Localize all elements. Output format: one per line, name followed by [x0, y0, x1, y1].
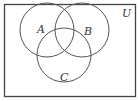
venn-diagram: A B C U	[0, 0, 138, 101]
set-a-label: A	[36, 23, 45, 36]
universe-rectangle	[5, 5, 136, 97]
set-c-label: C	[60, 71, 69, 84]
universe-label: U	[122, 7, 132, 20]
set-b-label: B	[83, 25, 92, 38]
